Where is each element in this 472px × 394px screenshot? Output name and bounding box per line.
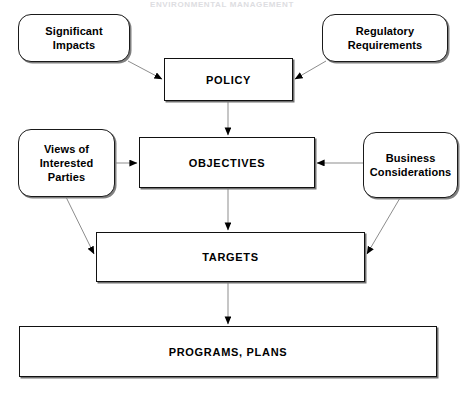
connector-views-to-targets [66, 197, 94, 254]
node-policy[interactable]: POLICY [164, 58, 293, 101]
node-targets-label: TARGETS [198, 251, 263, 263]
node-policy-label: POLICY [202, 74, 255, 86]
node-views-of-interested-parties[interactable]: Views of Interested Parties [18, 129, 115, 197]
node-objectives[interactable]: OBJECTIVES [139, 137, 315, 188]
node-regulatory-requirements[interactable]: Regulatory Requirements [322, 14, 448, 62]
node-programs-plans[interactable]: PROGRAMS, PLANS [19, 326, 437, 377]
node-business-considerations[interactable]: Business Considerations [363, 132, 458, 198]
node-views-of-interested-parties-label: Views of Interested Parties [36, 142, 98, 184]
node-objectives-label: OBJECTIVES [185, 157, 270, 169]
node-significant-impacts-label: Significant Impacts [41, 24, 106, 52]
node-significant-impacts[interactable]: Significant Impacts [18, 14, 130, 62]
node-business-considerations-label: Business Considerations [366, 151, 455, 179]
connector-regulatory-requirements-to-policy [295, 61, 326, 79]
node-targets[interactable]: TARGETS [96, 232, 365, 282]
node-programs-plans-label: PROGRAMS, PLANS [165, 346, 292, 358]
diagram-canvas: ENVIRONMENTAL MANAGEMENT Significant Imp… [0, 0, 472, 394]
node-regulatory-requirements-label: Regulatory Requirements [344, 24, 427, 52]
connector-business-to-targets [367, 198, 400, 254]
connector-significant-impacts-to-policy [128, 61, 162, 79]
